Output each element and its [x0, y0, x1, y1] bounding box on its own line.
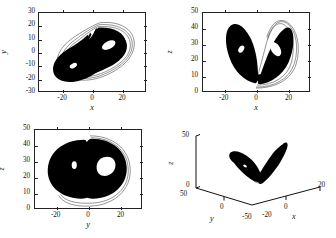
panel-xz: -20 0 20 50 40 30 20 10 0 x z [168, 0, 336, 119]
tick [140, 178, 143, 179]
tick [39, 53, 42, 54]
panel-xy-axes [38, 12, 146, 92]
tick [89, 127, 90, 130]
ytick-label: 20 [14, 22, 35, 29]
tick [39, 26, 42, 27]
tick [35, 178, 38, 179]
tick [123, 10, 124, 13]
tick [39, 80, 42, 81]
tick [123, 90, 124, 93]
x-axis-label: y [86, 221, 90, 229]
xtick-label: -20 [51, 212, 60, 219]
xtick-label: 0 [284, 204, 288, 211]
x-axis-label: x [90, 104, 94, 112]
panel-xz-plot-area [203, 13, 309, 91]
ytick-label: 20 [180, 56, 198, 63]
ytick-label: -20 [14, 75, 35, 82]
ytick-label: 0 [12, 205, 30, 212]
y-axis-label: z [166, 50, 174, 53]
xtick-label: 0 [86, 212, 90, 219]
figure-canvas: -20 0 20 30 20 10 0 -10 -20 -30 x y [0, 0, 336, 238]
ytick-label: 40 [180, 24, 198, 31]
tick [308, 61, 311, 62]
panel-xy-trace [39, 13, 145, 91]
tick [39, 40, 42, 41]
ytick-label: 30 [180, 40, 198, 47]
ytick-label: 30 [14, 8, 35, 15]
y-axis-label: y [0, 50, 8, 54]
panel-xz-trace [203, 13, 309, 91]
xtick-label: -20 [219, 95, 228, 102]
tick [225, 90, 226, 93]
xtick-label: 20 [285, 95, 292, 102]
panel-yz-plot-area [35, 130, 141, 208]
tick [144, 80, 147, 81]
panel-3d-axes [168, 119, 336, 238]
tick [203, 45, 206, 46]
tick [257, 10, 258, 13]
tick [121, 127, 122, 130]
void [72, 161, 77, 169]
ztick-label: 0 [186, 182, 190, 189]
tick [289, 90, 290, 93]
panel-xz-axes [202, 12, 310, 92]
ytick-label: -50 [242, 214, 252, 221]
ytick-label: -30 [14, 88, 35, 95]
xtick-label: 20 [318, 182, 325, 189]
tick [308, 77, 311, 78]
xtick-label: 20 [119, 95, 126, 102]
ytick-label: 10 [12, 189, 30, 196]
ytick-label: 30 [12, 157, 30, 164]
tick [89, 207, 90, 210]
tick [93, 90, 94, 93]
tick [63, 90, 64, 93]
tick [35, 194, 38, 195]
tick [140, 146, 143, 147]
ytick-label: 0 [14, 48, 35, 55]
tick [144, 53, 147, 54]
tick [203, 29, 206, 30]
panel-xy-plot-area [39, 13, 145, 91]
ztick-label: 50 [182, 132, 189, 139]
tick [144, 66, 147, 67]
tick [257, 90, 258, 93]
tick [144, 40, 147, 41]
ytick-label-origin: 50 [180, 191, 187, 198]
tick [140, 194, 143, 195]
xtick-label: 0 [90, 95, 94, 102]
ytick-label: 10 [180, 72, 198, 79]
tick [144, 26, 147, 27]
tick [225, 10, 226, 13]
panel-xy: -20 0 20 30 20 10 0 -10 -20 -30 x y [0, 0, 168, 119]
y-axis-label: y [210, 215, 214, 223]
tick [39, 66, 42, 67]
panel-yz-trace [35, 130, 141, 208]
ytick-label: 20 [12, 173, 30, 180]
xtick-label: -20 [262, 212, 272, 219]
ytick-label: 40 [12, 141, 30, 148]
ytick-label: 50 [12, 125, 30, 132]
panel-3d-axis-lines [168, 119, 336, 238]
tick [93, 10, 94, 13]
tick [308, 29, 311, 30]
tick [35, 146, 38, 147]
tick [35, 162, 38, 163]
ytick-label: 0 [220, 204, 224, 211]
xtick-label: 20 [117, 212, 124, 219]
x-axis-label: x [292, 213, 296, 221]
z-axis-label: z [167, 162, 175, 165]
ytick-label: 50 [180, 8, 198, 15]
tick [289, 10, 290, 13]
ytick-label: -10 [14, 62, 35, 69]
y-axis-label: z [0, 167, 7, 170]
xtick-label: -20 [57, 95, 66, 102]
tick [63, 10, 64, 13]
tick [203, 77, 206, 78]
tick [308, 45, 311, 46]
ytick-label: 0 [180, 88, 198, 95]
panel-yz-axes [34, 129, 142, 209]
panel-3d: 50 0 z 50 0 -50 y -20 0 20 x [168, 119, 336, 238]
tick [57, 127, 58, 130]
ytick-label: 10 [14, 35, 35, 42]
tick [57, 207, 58, 210]
